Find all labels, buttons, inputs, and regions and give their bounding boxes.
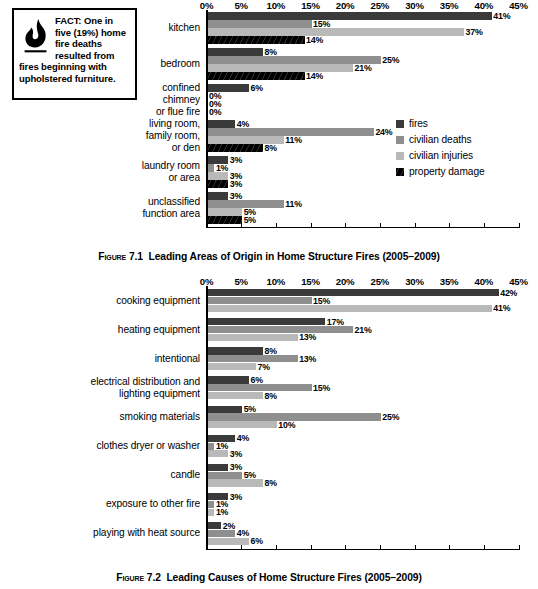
bar-value-label: 24% (375, 127, 392, 137)
x-axis-tick (449, 545, 450, 550)
bar-fires: 6% (208, 376, 250, 383)
x-axis-tick-label: 10% (267, 276, 286, 287)
category-group: clothes dryer or washer4%1%3% (206, 435, 520, 458)
bar-civilian-deaths: 15% (208, 20, 312, 28)
x-axis-tick-label: 35% (440, 0, 459, 11)
legend-item-fires: fires (396, 116, 485, 131)
x-axis-tick-label: 25% (371, 0, 390, 11)
category-label: playing with heat source (10, 528, 200, 540)
bar-property-damage: 8% (208, 144, 263, 152)
bar-fires: 8% (208, 48, 263, 56)
bar-value-label: 13% (299, 332, 316, 342)
bar-value-label: 41% (493, 303, 510, 313)
category-label: bedroom (10, 58, 200, 70)
legend-item-property-damage: property damage (396, 164, 485, 179)
legend-swatch-civilian-injuries (396, 152, 404, 160)
bar-civilian-injuries: 37% (208, 28, 465, 36)
bar-value-label: 8% (264, 478, 276, 488)
category-group: bedroom8%25%21%14% (206, 48, 520, 80)
category-label: cooking equipment (10, 295, 200, 307)
x-axis-tick (380, 545, 381, 550)
category-group: kitchen41%15%37%14% (206, 12, 520, 44)
figure-caption-2: Figure 7.2 Leading Causes of Home Struct… (0, 572, 538, 583)
bar-value-label: 25% (382, 55, 399, 65)
category-label: living room, family room, or den (10, 118, 200, 153)
category-label: intentional (10, 353, 200, 365)
bar-value-label: 21% (355, 63, 372, 73)
bar-value-label: 14% (306, 71, 323, 81)
category-label: unclassified function area (10, 196, 200, 220)
legend-swatch-fires (396, 120, 404, 128)
x-axis-tick-label: 5% (234, 276, 247, 287)
bar-value-label: 3% (230, 155, 242, 165)
category-group: playing with heat source2%4%6% (206, 522, 520, 545)
x-axis-tick-label: 0% (200, 0, 213, 11)
x-axis-tick-label: 5% (234, 0, 247, 11)
bar-property-damage: 14% (208, 36, 305, 44)
bar-civilian-injuries: 8% (208, 479, 263, 486)
bar-civilian-injuries: 13% (208, 334, 298, 341)
bar-civilian-injuries: 10% (208, 421, 277, 428)
bar-civilian-injuries: 21% (208, 64, 354, 72)
x-axis-tick-label: 40% (475, 0, 494, 11)
category-label: electrical distribution and lighting equ… (10, 376, 200, 400)
bar-value-label: 3% (230, 449, 242, 459)
bar-value-label: 3% (230, 492, 242, 502)
bar-civilian-deaths: 1% (208, 443, 215, 450)
bar-value-label: 10% (278, 420, 295, 430)
bar-value-label: 21% (355, 325, 372, 335)
x-axis-tick-label: 30% (405, 276, 424, 287)
bar-value-label: 25% (382, 412, 399, 422)
x-axis-tick (415, 545, 416, 550)
category-label: clothes dryer or washer (10, 440, 200, 452)
x-axis-tick-label: 20% (336, 276, 355, 287)
bar-value-label: 0% (209, 107, 221, 117)
bar-fires: 8% (208, 347, 263, 354)
bar-fires: 17% (208, 318, 326, 325)
x-axis-line-2 (206, 549, 520, 551)
x-axis-tick-label: 45% (509, 276, 528, 287)
bar-value-label: 3% (230, 179, 242, 189)
x-axis-tick-label: 10% (267, 0, 286, 11)
category-label: exposure to other fire (10, 498, 200, 510)
bar-value-label: 5% (244, 215, 256, 225)
category-label: candle (10, 469, 200, 481)
x-tick-labels-2: 0%5%10%15%20%25%30%35%40%45% (206, 276, 520, 290)
figure-caption-1: Figure 7.1 Leading Areas of Origin in Ho… (0, 251, 538, 262)
bar-value-label: 11% (285, 199, 302, 209)
x-axis-tick (276, 545, 277, 550)
figure-7-1: kitchen41%15%37%14%bedroom8%25%21%14%con… (0, 0, 538, 272)
category-label: smoking materials (10, 411, 200, 423)
category-group: electrical distribution and lighting equ… (206, 376, 520, 399)
plot-area-2: cooking equipment42%15%41%heating equipm… (206, 286, 520, 550)
x-tick-labels-1: 0%5%10%15%20%25%30%35%40%45% (206, 0, 520, 14)
figure-number-2: Figure 7.2 (116, 572, 161, 583)
bar-civilian-injuries: 41% (208, 305, 492, 312)
bar-value-label: 14% (306, 35, 323, 45)
legend-item-civilian-deaths: civilian deaths (396, 132, 485, 147)
bar-fires: 5% (208, 406, 243, 413)
x-axis-tick-label: 45% (509, 0, 528, 11)
bar-civilian-injuries: 8% (208, 392, 263, 399)
category-label: confined chimney or flue fire (10, 82, 200, 117)
bar-value-label: 11% (285, 135, 302, 145)
x-axis-tick-label: 20% (336, 0, 355, 11)
figure-page: FACT: One in five (19%) home fire deaths… (0, 0, 538, 589)
x-axis-tick-label: 15% (301, 0, 320, 11)
category-group: heating equipment17%21%13% (206, 318, 520, 341)
bar-civilian-deaths: 1% (208, 164, 215, 172)
x-axis-tick (519, 545, 520, 550)
legend-label-property-damage: property damage (409, 166, 485, 177)
figure-number-1: Figure 7.1 (98, 251, 143, 262)
bar-civilian-deaths: 1% (208, 501, 215, 508)
bar-fires: 4% (208, 120, 236, 128)
category-group: intentional8%13%7% (206, 347, 520, 370)
x-axis-line-1 (206, 227, 520, 229)
bar-value-label: 7% (258, 362, 270, 372)
x-axis-tick (345, 545, 346, 550)
bar-fires: 2% (208, 522, 222, 529)
bar-civilian-deaths: 13% (208, 355, 298, 362)
category-group: exposure to other fire3%1%1% (206, 493, 520, 516)
bar-value-label: 13% (299, 354, 316, 364)
x-axis-tick (207, 545, 208, 550)
